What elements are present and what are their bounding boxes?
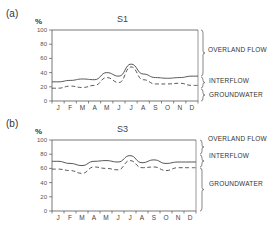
y-tick-label: 0 — [44, 98, 48, 104]
zone-brace — [200, 140, 204, 154]
y-tick-label: 60 — [40, 165, 47, 171]
overland-boundary-line — [52, 64, 198, 82]
y-tick-label: 40 — [40, 70, 47, 76]
x-tick-label: F — [68, 214, 72, 221]
y-tick-label: 80 — [40, 151, 47, 157]
y-tick-label: 20 — [40, 84, 47, 90]
zone-brace — [201, 77, 205, 88]
overland-boundary-line — [52, 156, 196, 166]
x-tick-label: N — [176, 214, 181, 221]
x-tick-label: J — [128, 214, 131, 221]
zone-brace — [201, 30, 205, 76]
zone-brace — [200, 155, 204, 167]
zone-groundwater: GROUNDWATER — [209, 91, 263, 98]
y-tick-label: 60 — [40, 55, 47, 61]
y-tick-label: 80 — [40, 41, 47, 47]
zone-overland-flow: OVERLAND FLOW — [208, 135, 267, 142]
zone-interflow: INTERFLOW — [209, 152, 249, 159]
x-tick-label: M — [103, 214, 108, 221]
x-tick-label: J — [116, 214, 119, 221]
x-tick-label: J — [56, 214, 59, 221]
x-tick-label: S — [152, 214, 157, 221]
zone-interflow: INTERFLOW — [209, 77, 249, 84]
y-tick-label: 100 — [37, 27, 48, 33]
x-tick-label: A — [140, 214, 145, 221]
zone-brace — [200, 168, 204, 211]
y-tick-label: 20 — [40, 194, 47, 200]
x-tick-label: A — [92, 214, 97, 221]
panel-s1: (a) % S1 020406080100JFMAMJJASOND OVERLA… — [0, 0, 275, 114]
chart-s3: 020406080100JFMAMJJASOND — [0, 110, 275, 228]
x-tick-label: O — [163, 214, 168, 221]
panel-s3: (b) % S3 020406080100JFMAMJJASOND OVERLA… — [0, 110, 275, 224]
zone-overland-flow: OVERLAND FLOW — [208, 46, 267, 53]
x-tick-label: M — [79, 214, 84, 221]
zone-brace — [201, 89, 205, 101]
y-tick-label: 40 — [40, 180, 47, 186]
y-tick-label: 0 — [44, 208, 48, 214]
x-tick-label: D — [188, 214, 193, 221]
y-tick-label: 100 — [37, 137, 48, 143]
zone-groundwater: GROUNDWATER — [209, 180, 263, 187]
